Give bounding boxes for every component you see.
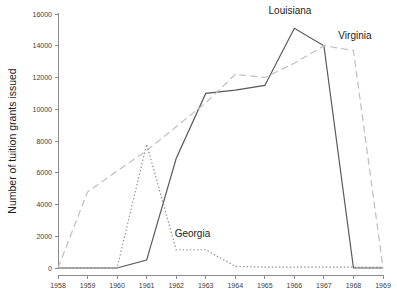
y-tick-label: 0 xyxy=(48,265,52,272)
series-line-louisiana xyxy=(58,28,383,268)
x-tick-label: 1964 xyxy=(227,282,243,289)
x-tick-label: 1958 xyxy=(50,282,66,289)
line-chart: 0200040006000800010000120001400016000 19… xyxy=(0,0,397,296)
y-axis: 0200040006000800010000120001400016000 xyxy=(33,11,58,272)
y-axis-title-text: Number of tuition grants issued xyxy=(6,68,18,213)
x-tick-label: 1963 xyxy=(198,282,214,289)
y-tick-label: 6000 xyxy=(36,169,52,176)
x-tick-label: 1968 xyxy=(346,282,362,289)
x-tick-label: 1962 xyxy=(168,282,184,289)
x-tick-label: 1966 xyxy=(287,282,303,289)
series-label-georgia: Georgia xyxy=(175,228,211,239)
series-line-georgia xyxy=(58,144,383,268)
x-tick-label: 1959 xyxy=(80,282,96,289)
series-labels: LouisianaVirginiaGeorgia xyxy=(175,5,372,239)
x-tick-label: 1961 xyxy=(139,282,155,289)
y-tick-label: 10000 xyxy=(33,106,53,113)
x-tick-label: 1965 xyxy=(257,282,273,289)
y-axis-title: Number of tuition grants issued xyxy=(6,68,18,213)
y-tick-label: 4000 xyxy=(36,201,52,208)
series-label-virginia: Virginia xyxy=(338,30,372,41)
y-tick-label: 14000 xyxy=(33,42,53,49)
chart-container: 0200040006000800010000120001400016000 19… xyxy=(0,0,397,296)
y-tick-label: 12000 xyxy=(33,74,53,81)
x-tick-label: 1960 xyxy=(109,282,125,289)
series-line-virginia xyxy=(58,46,383,268)
series-lines xyxy=(58,28,383,268)
series-label-louisiana: Louisiana xyxy=(269,5,312,16)
x-tick-label: 1967 xyxy=(316,282,332,289)
y-tick-label: 16000 xyxy=(33,11,53,18)
x-axis: 1958195919601961196219631964196519661967… xyxy=(50,275,391,289)
y-tick-label: 8000 xyxy=(36,138,52,145)
x-tick-label: 1969 xyxy=(375,282,391,289)
y-tick-label: 2000 xyxy=(36,233,52,240)
